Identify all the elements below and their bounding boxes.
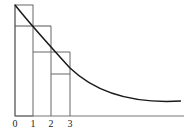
riemann-diagram [0, 0, 194, 136]
decreasing-curve [15, 5, 181, 101]
upper-rect-1 [15, 5, 33, 116]
tick-label-2: 2 [46, 118, 56, 129]
tick-label-3: 3 [65, 118, 75, 129]
tick-label-0: 0 [10, 118, 20, 129]
tick-label-1: 1 [28, 118, 38, 129]
